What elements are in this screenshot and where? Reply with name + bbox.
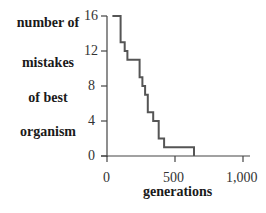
step-line-series (112, 16, 194, 156)
y-axis (101, 16, 107, 157)
x-axis (101, 156, 250, 162)
chart-plot (0, 0, 266, 213)
